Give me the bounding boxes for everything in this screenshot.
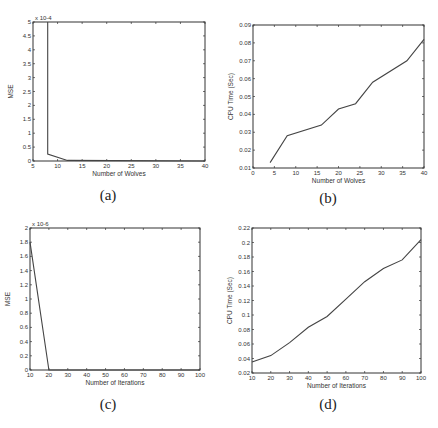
y-tick-label: 1.8	[20, 239, 29, 245]
x-tick-label: 25	[357, 170, 364, 176]
x-tick-label: 0	[251, 170, 255, 176]
y-tick-label: 5	[28, 19, 32, 25]
y-tick-label: 0.08	[238, 327, 250, 333]
y-tick-label: 1.4	[20, 268, 29, 274]
x-tick-label: 100	[416, 375, 427, 381]
y-tick-label: 0.14	[238, 283, 250, 289]
x-axis-label: Number of Iterations	[307, 382, 367, 389]
x-tick-label: 50	[102, 372, 109, 378]
chart-d-plot: 1020304050607080901000.020.040.060.080.1…	[220, 215, 438, 390]
x-tick-label: 20	[335, 170, 342, 176]
chart-a-plot: 51015202530354000.511.522.533.544.55x 10…	[0, 0, 220, 180]
y-tick-label: 0.03	[239, 129, 251, 135]
y-multiplier: x 10-6	[32, 221, 49, 227]
y-tick-label: 0.02	[238, 370, 250, 376]
y-tick-label: 0.06	[239, 76, 251, 82]
plot-frame	[33, 22, 205, 161]
y-tick-label: 0.4	[20, 339, 29, 345]
x-tick-label: 30	[378, 170, 385, 176]
x-tick-label: 10	[292, 170, 299, 176]
chart-b-plot: 05101520253035400.010.020.030.040.050.06…	[220, 0, 438, 185]
x-tick-label: 10	[54, 163, 61, 169]
x-axis-label: Number of Wolves	[312, 177, 366, 184]
chart-c-plot: 10203040506070809010000.20.40.60.811.21.…	[0, 215, 220, 390]
x-tick-label: 15	[79, 163, 86, 169]
x-tick-label: 40	[305, 375, 312, 381]
plot-frame	[30, 228, 200, 370]
y-tick-label: 0.02	[239, 147, 251, 153]
y-tick-label: 0.8	[20, 310, 29, 316]
caption-b: (b)	[308, 190, 348, 207]
y-tick-label: 0.18	[238, 254, 250, 260]
x-tick-label: 35	[177, 163, 184, 169]
x-tick-label: 30	[64, 372, 71, 378]
x-tick-label: 40	[83, 372, 90, 378]
y-tick-label: 1	[25, 296, 29, 302]
x-tick-label: 30	[153, 163, 160, 169]
x-tick-label: 25	[128, 163, 135, 169]
y-tick-label: 2.5	[23, 89, 32, 95]
caption-c: (c)	[88, 396, 128, 413]
y-tick-label: 0.22	[238, 225, 250, 231]
y-tick-label: 2	[25, 225, 29, 231]
caption-d: (d)	[308, 396, 348, 413]
x-tick-label: 60	[121, 372, 128, 378]
y-tick-label: 1	[28, 130, 32, 136]
plot-frame	[253, 25, 424, 168]
x-tick-label: 20	[267, 375, 274, 381]
y-tick-label: 0.01	[239, 165, 251, 171]
chart-c: 10203040506070809010000.20.40.60.811.21.…	[0, 215, 220, 390]
y-axis-label: CPU Time (Sec)	[227, 73, 235, 120]
y-tick-label: 0.04	[238, 356, 250, 362]
y-tick-label: 0.04	[239, 111, 251, 117]
x-tick-label: 5	[31, 163, 35, 169]
x-tick-label: 70	[361, 375, 368, 381]
x-tick-label: 40	[421, 170, 428, 176]
y-multiplier: x 10-4	[35, 15, 52, 21]
y-tick-label: 0.1	[242, 312, 251, 318]
data-series-line	[30, 242, 200, 370]
y-tick-label: 0.16	[238, 269, 250, 275]
x-tick-label: 20	[46, 372, 53, 378]
x-tick-label: 90	[399, 375, 406, 381]
y-tick-label: 0.08	[239, 40, 251, 46]
x-tick-label: 30	[286, 375, 293, 381]
y-tick-label: 4.5	[23, 33, 32, 39]
y-tick-label: 0.2	[20, 353, 29, 359]
y-tick-label: 0.6	[20, 324, 29, 330]
y-tick-label: 1.5	[23, 116, 32, 122]
x-tick-label: 100	[195, 372, 206, 378]
x-tick-label: 70	[140, 372, 147, 378]
y-tick-label: 1.6	[20, 253, 29, 259]
x-tick-label: 50	[324, 375, 331, 381]
y-tick-label: 0.09	[239, 22, 251, 28]
x-tick-label: 5	[273, 170, 277, 176]
x-tick-label: 80	[380, 375, 387, 381]
y-tick-label: 0.07	[239, 58, 251, 64]
x-axis-label: Number of Iterations	[86, 379, 146, 386]
chart-d: 1020304050607080901000.020.040.060.080.1…	[220, 215, 438, 390]
x-tick-label: 60	[343, 375, 350, 381]
y-tick-label: 4	[28, 47, 32, 53]
y-tick-label: 3	[28, 75, 32, 81]
data-series-line	[252, 240, 421, 363]
x-tick-label: 80	[159, 372, 166, 378]
chart-a: 51015202530354000.511.522.533.544.55x 10…	[0, 0, 220, 180]
x-tick-label: 40	[202, 163, 209, 169]
x-axis-label: Number of Wolves	[92, 170, 146, 177]
y-tick-label: 0.2	[242, 240, 251, 246]
y-tick-label: 0.5	[23, 144, 32, 150]
x-tick-label: 20	[103, 163, 110, 169]
x-tick-label: 90	[178, 372, 185, 378]
y-tick-label: 0.06	[238, 341, 250, 347]
data-series-line	[48, 22, 205, 161]
y-axis-label: CPU Time (Sec)	[226, 277, 234, 324]
x-tick-label: 15	[314, 170, 321, 176]
y-tick-label: 0.05	[239, 94, 251, 100]
y-tick-label: 2	[28, 102, 32, 108]
y-tick-label: 1.2	[20, 282, 29, 288]
y-tick-label: 0.12	[238, 298, 250, 304]
y-axis-label: MSE	[7, 84, 14, 99]
chart-b: 05101520253035400.010.020.030.040.050.06…	[220, 0, 438, 185]
x-tick-label: 35	[399, 170, 406, 176]
